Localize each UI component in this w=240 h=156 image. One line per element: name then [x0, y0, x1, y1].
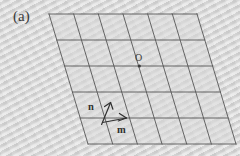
origin-label: O: [135, 52, 142, 63]
page-title: (a): [13, 8, 30, 25]
figure-panel-a: (a) O n m: [0, 0, 240, 156]
dot-icon: [138, 64, 141, 67]
basis-vector-m-label: m: [117, 124, 126, 135]
basis-vector-n-label: n: [88, 101, 94, 112]
